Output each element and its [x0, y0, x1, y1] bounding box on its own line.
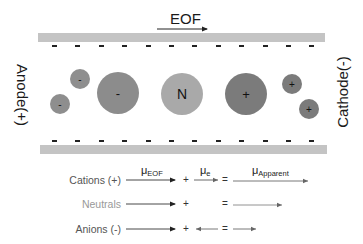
negative-charge-icon — [122, 45, 127, 47]
neutrals-equals: = — [222, 198, 228, 209]
anions-label: Anions (-) — [75, 223, 121, 235]
negative-charge-icon — [122, 140, 127, 142]
mu-eof-header: μEOF — [141, 164, 163, 178]
negative-charge-icon — [169, 45, 174, 47]
negative-charge-icon — [146, 140, 151, 142]
negative-charge-icon — [263, 140, 268, 142]
negative-charge-icon — [52, 45, 57, 47]
negative-charge-icon — [239, 140, 244, 142]
negative-charge-icon — [99, 140, 104, 142]
negative-charge-icon — [309, 140, 314, 142]
anode-label: Anode(+) — [14, 64, 31, 126]
negative-charge-icon — [216, 140, 221, 142]
negative-charge-icon — [52, 140, 57, 142]
cations-equals: = — [222, 174, 228, 185]
cations-label: Cations (+) — [69, 174, 121, 186]
negative-charge-icon — [75, 45, 80, 47]
neutrals-label: Neutrals — [82, 198, 121, 210]
neutrals-plus: + — [183, 198, 189, 209]
mu-apparent-sub: Apparent — [258, 169, 288, 178]
capillary-top-wall — [38, 33, 325, 42]
negative-charge-icon — [286, 45, 291, 47]
cation-small-icon: + — [282, 74, 302, 94]
capillary-bottom-wall — [40, 145, 327, 154]
anion-small-icon: - — [70, 69, 90, 89]
cathode-label: Cathode(-) — [334, 56, 351, 128]
cation-large-icon: + — [225, 73, 267, 115]
mu-e-sub: e — [206, 169, 210, 178]
neutral-large-icon: N — [161, 73, 203, 115]
negative-charge-icon — [239, 45, 244, 47]
negative-charge-icon — [216, 45, 221, 47]
anion-small-icon: - — [50, 94, 70, 114]
negative-charge-icon — [169, 140, 174, 142]
mu-apparent-header: μApparent — [252, 164, 289, 178]
negative-charge-icon — [192, 45, 197, 47]
negative-charge-icon — [75, 140, 80, 142]
anions-equals: = — [222, 223, 228, 234]
cation-small-icon: + — [299, 99, 319, 119]
anions-plus: + — [183, 223, 189, 234]
negative-charge-icon — [286, 140, 291, 142]
negative-charge-icon — [192, 140, 197, 142]
negative-charge-icon — [309, 45, 314, 47]
negative-charge-icon — [146, 45, 151, 47]
mu-e-header: μe — [200, 164, 211, 178]
anion-large-icon: - — [97, 72, 139, 114]
negative-charge-icon — [263, 45, 268, 47]
mu-eof-sub: EOF — [147, 169, 162, 178]
negative-charge-icon — [99, 45, 104, 47]
cations-plus: + — [183, 174, 189, 185]
